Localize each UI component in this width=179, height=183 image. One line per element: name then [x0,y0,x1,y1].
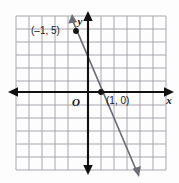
graph-canvas: (–1, 5) (1, 0) O x y [0,0,179,183]
point-marker-a [73,28,79,34]
point-label-b: (1, 0) [106,95,129,106]
y-axis-label: y [76,15,83,27]
point-label-a: (–1, 5) [31,25,60,36]
x-axis-label: x [165,94,172,106]
origin-label: O [72,96,80,108]
point-marker-b [98,89,104,95]
coordinate-plane-figure: (–1, 5) (1, 0) O x y [0,0,179,183]
